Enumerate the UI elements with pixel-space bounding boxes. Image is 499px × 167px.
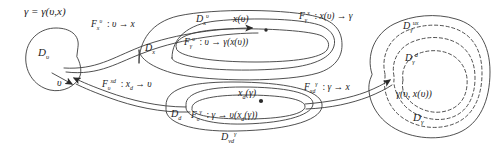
dot-xd-gamma bbox=[259, 99, 263, 103]
figure-canvas: γ = γ(υ,x) Dυ υ Fxυ : υ → x Dx Dxυ x(υ) … bbox=[0, 0, 499, 167]
label-xd-of-gamma: xd(γ) bbox=[238, 88, 256, 100]
shape-dgamma-blob bbox=[369, 16, 490, 138]
label-gamma-of-v-xv: γ(υ, x(υ)) bbox=[396, 89, 432, 99]
label-domain-dx-v: Dxυ bbox=[196, 13, 209, 27]
label-domain-dgamma: Dγ bbox=[413, 112, 424, 126]
label-domain-dx: Dx bbox=[145, 43, 155, 55]
shape-dv-blob bbox=[26, 28, 81, 91]
title-equation: γ = γ(υ,x) bbox=[24, 6, 66, 17]
label-domain-dv: Dυ bbox=[38, 47, 49, 61]
label-domain-dgamma-ux: Dγux bbox=[403, 20, 419, 34]
label-domain-dd: Dd bbox=[171, 109, 181, 121]
diagram-vector-layer bbox=[0, 0, 499, 167]
label-map-f-xd-gamma: Fxdγ : γ → x bbox=[304, 82, 350, 95]
label-map-f-gamma-x: Fγx : x(υ) → γ bbox=[299, 11, 352, 24]
label-element-v: υ bbox=[57, 78, 62, 88]
label-x-of-v: x(υ) bbox=[233, 14, 249, 24]
label-domain-dgamma-d: Dγd bbox=[405, 52, 418, 66]
label-map-f-v-xd: Fυxd : xd → υ bbox=[102, 79, 152, 92]
arrow-into-v bbox=[52, 73, 72, 84]
dot-xv bbox=[264, 28, 267, 31]
label-domain-dvd-gamma: Dvdγ bbox=[221, 131, 237, 145]
label-map-f-v-gamma: Fυγ : γ → υ(xd(γ)) bbox=[191, 110, 258, 123]
label-map-f-gamma-v: Fγυ : υ → γ(x(υ)) bbox=[184, 37, 248, 50]
shape-dgamma-d bbox=[393, 38, 475, 120]
label-map-f-x-v: Fxυ : υ → x bbox=[91, 19, 135, 32]
